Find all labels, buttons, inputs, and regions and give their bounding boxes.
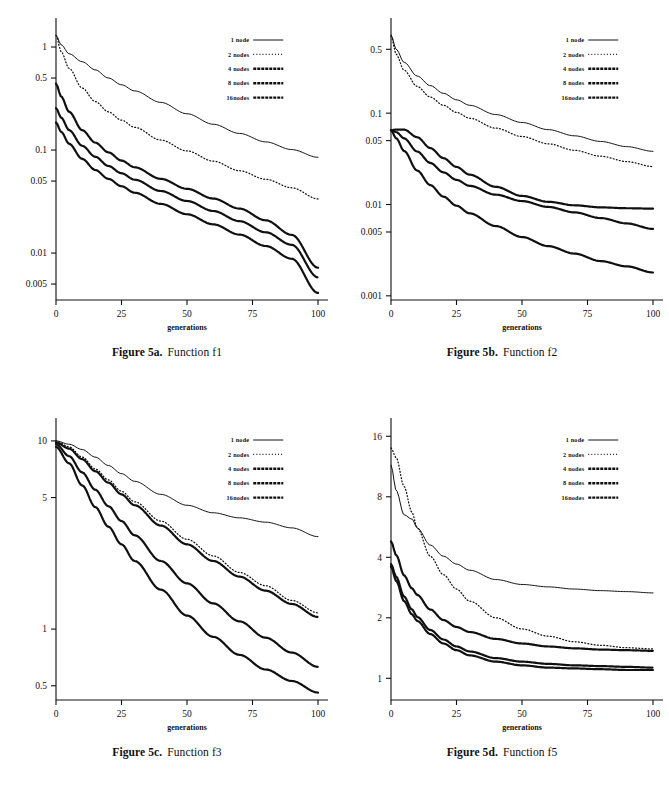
svg-text:0: 0 xyxy=(54,709,59,719)
series-line-16nodes xyxy=(391,566,653,670)
svg-text:100: 100 xyxy=(646,309,661,319)
figure-page: 10.50.10.050.010.0050255075100generation… xyxy=(0,0,669,803)
svg-text:16: 16 xyxy=(373,432,383,442)
legend-label-2: 4 nodes xyxy=(563,65,585,72)
figure-panel-5b: 0.50.10.050.010.0050.0010255075100genera… xyxy=(335,0,669,400)
plot-svg-5a: 10.50.10.050.010.0050255075100generation… xyxy=(0,0,334,350)
figure-caption-5d: Figure 5d.Function f5 xyxy=(335,746,669,758)
svg-text:25: 25 xyxy=(117,309,127,319)
svg-text:1: 1 xyxy=(42,42,47,52)
series-line-4-nodes xyxy=(391,130,653,209)
figure-label-5a: Figure 5a. xyxy=(112,346,163,358)
legend-label-0: 1 node xyxy=(231,436,250,443)
svg-text:2: 2 xyxy=(377,613,382,623)
svg-text:generations: generations xyxy=(167,323,207,332)
legend-label-1: 2 nodes xyxy=(563,51,585,58)
legend-label-0: 1 node xyxy=(566,36,585,43)
svg-text:0: 0 xyxy=(389,309,394,319)
svg-text:100: 100 xyxy=(311,709,326,719)
svg-text:0.005: 0.005 xyxy=(26,279,48,289)
figure-caption-5a: Figure 5a.Function f1 xyxy=(0,346,334,358)
series-line-8-nodes xyxy=(391,564,653,668)
svg-text:0.05: 0.05 xyxy=(30,176,47,186)
svg-text:50: 50 xyxy=(182,309,192,319)
legend-label-3: 8 nodes xyxy=(228,479,250,486)
figure-panel-5a: 10.50.10.050.010.0050255075100generation… xyxy=(0,0,334,400)
legend-label-0: 1 node xyxy=(566,436,585,443)
legend-label-2: 4 nodes xyxy=(228,65,250,72)
series-line-16nodes xyxy=(56,123,318,293)
svg-text:25: 25 xyxy=(452,709,462,719)
legend-label-3: 8 nodes xyxy=(563,79,585,86)
series-line-1-node xyxy=(391,35,653,151)
legend-label-2: 4 nodes xyxy=(563,465,585,472)
figure-label-5c: Figure 5c. xyxy=(112,746,162,758)
svg-text:0.1: 0.1 xyxy=(370,109,382,119)
figure-function-5b: Function f2 xyxy=(503,346,557,358)
svg-text:generations: generations xyxy=(502,723,542,732)
svg-text:5: 5 xyxy=(42,493,47,503)
svg-text:100: 100 xyxy=(311,309,326,319)
figure-function-5a: Function f1 xyxy=(168,346,222,358)
figure-caption-5b: Figure 5b.Function f2 xyxy=(335,346,669,358)
svg-text:0.5: 0.5 xyxy=(370,45,382,55)
legend-label-4: 16nodes xyxy=(227,494,250,501)
svg-text:0.5: 0.5 xyxy=(35,73,47,83)
figure-panel-5c: 10510.50255075100generations1 node2 node… xyxy=(0,400,334,800)
svg-text:10: 10 xyxy=(38,436,48,446)
svg-text:50: 50 xyxy=(517,709,527,719)
series-line-2-nodes xyxy=(56,35,318,199)
svg-text:75: 75 xyxy=(248,709,258,719)
series-line-4-nodes xyxy=(56,84,318,268)
plot-svg-5d: 1684210255075100generations1 node2 nodes… xyxy=(335,400,669,750)
svg-text:75: 75 xyxy=(583,709,593,719)
svg-text:0.01: 0.01 xyxy=(365,200,382,210)
series-line-2-nodes xyxy=(56,441,318,613)
svg-text:0: 0 xyxy=(389,709,394,719)
series-line-8-nodes xyxy=(56,444,318,667)
legend-label-0: 1 node xyxy=(231,36,250,43)
figure-function-5d: Function f5 xyxy=(503,746,557,758)
plot-svg-5c: 10510.50255075100generations1 node2 node… xyxy=(0,400,334,750)
plot-area-5d: 1684210255075100generations1 node2 nodes… xyxy=(335,400,669,750)
svg-text:4: 4 xyxy=(377,553,382,563)
svg-text:0.5: 0.5 xyxy=(35,681,47,691)
legend-label-3: 8 nodes xyxy=(563,479,585,486)
svg-text:1: 1 xyxy=(377,674,382,684)
legend-label-1: 2 nodes xyxy=(228,451,250,458)
legend-label-1: 2 nodes xyxy=(563,451,585,458)
figure-panel-5d: 1684210255075100generations1 node2 nodes… xyxy=(335,400,669,800)
svg-text:25: 25 xyxy=(117,709,127,719)
legend-label-4: 16nodes xyxy=(562,94,585,101)
svg-text:0: 0 xyxy=(54,309,59,319)
svg-text:75: 75 xyxy=(248,309,258,319)
svg-text:0.05: 0.05 xyxy=(365,136,382,146)
plot-svg-5b: 0.50.10.050.010.0050.0010255075100genera… xyxy=(335,0,669,350)
svg-text:50: 50 xyxy=(182,709,192,719)
series-line-1-node xyxy=(56,35,318,157)
svg-text:50: 50 xyxy=(517,309,527,319)
svg-text:generations: generations xyxy=(167,723,207,732)
legend-label-4: 16nodes xyxy=(227,94,250,101)
figure-label-5d: Figure 5d. xyxy=(447,746,498,758)
svg-text:25: 25 xyxy=(452,309,462,319)
figure-label-5b: Figure 5b. xyxy=(447,346,498,358)
figure-function-5c: Function f3 xyxy=(167,746,221,758)
series-line-8-nodes xyxy=(391,130,653,229)
svg-text:0.001: 0.001 xyxy=(361,291,383,301)
svg-text:0.01: 0.01 xyxy=(30,248,47,258)
plot-area-5a: 10.50.10.050.010.0050255075100generation… xyxy=(0,0,334,350)
legend-label-4: 16nodes xyxy=(562,494,585,501)
series-line-2-nodes xyxy=(391,448,653,649)
plot-area-5c: 10510.50255075100generations1 node2 node… xyxy=(0,400,334,750)
svg-text:generations: generations xyxy=(502,323,542,332)
legend-label-2: 4 nodes xyxy=(228,465,250,472)
svg-text:1: 1 xyxy=(42,624,47,634)
svg-text:0.005: 0.005 xyxy=(361,227,383,237)
legend-label-3: 8 nodes xyxy=(228,79,250,86)
svg-text:75: 75 xyxy=(583,309,593,319)
figure-caption-5c: Figure 5c.Function f3 xyxy=(0,746,334,758)
svg-text:100: 100 xyxy=(646,709,661,719)
plot-area-5b: 0.50.10.050.010.0050.0010255075100genera… xyxy=(335,0,669,350)
legend-label-1: 2 nodes xyxy=(228,51,250,58)
